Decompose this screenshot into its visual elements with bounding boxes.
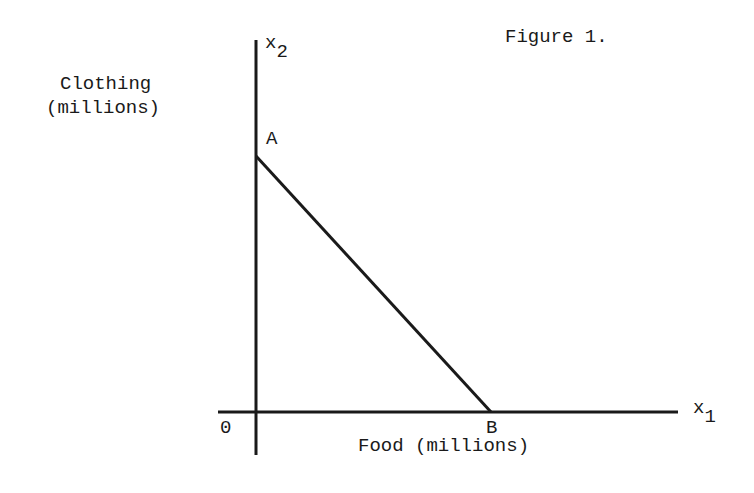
x-axis-var: x	[693, 397, 704, 419]
y-axis-sub: 2	[276, 41, 287, 63]
y-axis-symbol: x2	[265, 33, 288, 54]
y-axis-label-line2: (millions)	[46, 98, 160, 119]
figure-title: Figure 1.	[505, 27, 608, 48]
point-a-label: A	[266, 129, 277, 150]
origin-label: 0	[220, 418, 231, 439]
line-ab	[256, 156, 491, 412]
x-axis-label: Food (millions)	[358, 436, 529, 457]
y-axis-var: x	[265, 32, 276, 54]
y-axis-label-line1: Clothing	[60, 74, 151, 95]
x-axis-symbol: x1	[693, 398, 716, 419]
x-axis-sub: 1	[704, 406, 715, 428]
